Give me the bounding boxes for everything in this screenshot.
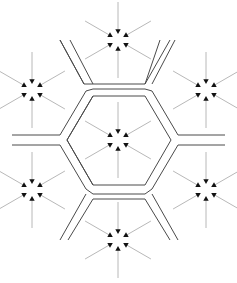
arrow-shaft xyxy=(40,195,65,210)
arrowhead-icon xyxy=(115,229,120,234)
arrowhead-icon xyxy=(115,29,120,34)
wall-segment xyxy=(12,91,86,135)
arrowhead-icon xyxy=(203,179,208,184)
cell-upper-right xyxy=(173,52,237,128)
arrow-shaft xyxy=(85,221,110,236)
wall-segment xyxy=(60,40,84,84)
wall-segment xyxy=(67,96,93,185)
arrow-shaft xyxy=(173,71,198,86)
cell-bottom xyxy=(85,202,151,278)
arrow-shaft xyxy=(214,195,237,210)
arrowhead-icon xyxy=(29,96,34,101)
arrow-shaft xyxy=(40,71,65,86)
arrow-shaft xyxy=(0,71,24,86)
cell-arrow-clusters xyxy=(0,2,237,278)
arrow-shaft xyxy=(40,171,65,186)
arrow-shaft xyxy=(173,171,198,186)
wall-segment xyxy=(86,89,93,91)
arrow-shaft xyxy=(126,45,151,60)
arrow-shaft xyxy=(214,95,237,110)
arrowhead-icon xyxy=(29,179,34,184)
arrow-shaft xyxy=(214,171,237,186)
arrow-shaft xyxy=(126,221,151,236)
arrow-shaft xyxy=(40,95,65,110)
arrow-shaft xyxy=(0,195,24,210)
cell-lower-right xyxy=(173,152,237,228)
arrow-shaft xyxy=(85,21,110,36)
cell-top xyxy=(85,2,151,78)
arrow-shaft xyxy=(126,145,151,160)
arrowhead-icon xyxy=(115,146,120,151)
arrowhead-icon xyxy=(203,79,208,84)
arrow-shaft xyxy=(85,245,110,260)
cell-upper-left xyxy=(0,52,65,128)
wall-segment xyxy=(145,89,152,91)
arrow-shaft xyxy=(173,195,198,210)
arrow-shaft xyxy=(126,21,151,36)
arrow-shaft xyxy=(0,171,24,186)
cell-center xyxy=(85,102,151,178)
arrow-shaft xyxy=(173,95,198,110)
arrow-shaft xyxy=(85,45,110,60)
arrowhead-icon xyxy=(203,196,208,201)
arrowhead-icon xyxy=(115,46,120,51)
wall-segment xyxy=(145,189,152,194)
arrow-shaft xyxy=(85,121,110,136)
hexagon-convergence-diagram xyxy=(0,0,237,283)
arrow-shaft xyxy=(126,121,151,136)
arrow-shaft xyxy=(85,145,110,160)
arrowhead-icon xyxy=(29,79,34,84)
arrowhead-icon xyxy=(115,129,120,134)
arrow-shaft xyxy=(0,95,24,110)
arrowhead-icon xyxy=(115,246,120,251)
wall-segment xyxy=(86,189,93,194)
arrow-shaft xyxy=(126,245,151,260)
arrow-shaft xyxy=(214,71,237,86)
wall-segment xyxy=(70,40,93,84)
wall-segment xyxy=(60,40,170,84)
center-cell-inner-wall xyxy=(67,96,171,185)
arrowhead-icon xyxy=(29,196,34,201)
arrowhead-icon xyxy=(203,96,208,101)
cell-lower-left xyxy=(0,152,65,228)
wall-segment xyxy=(152,40,175,84)
